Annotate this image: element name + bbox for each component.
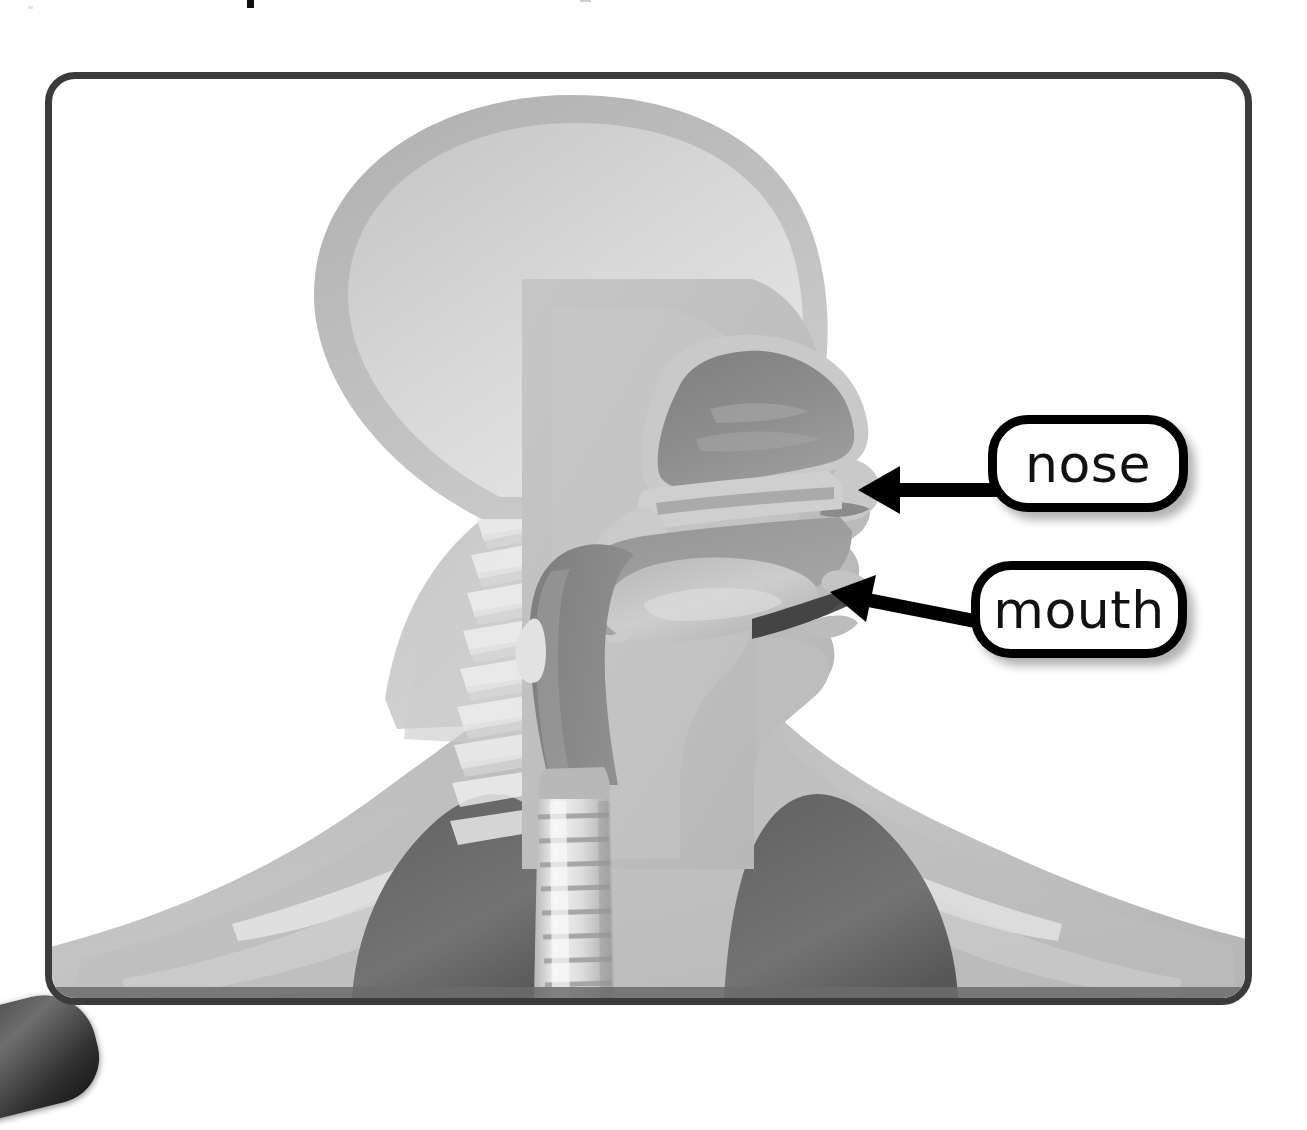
- callout-label-mouth-text: mouth: [993, 584, 1164, 636]
- callout-label-nose[interactable]: nose: [988, 415, 1188, 512]
- text-remnant-mark-3: [28, 6, 33, 9]
- cut-off-text-line-above: [0, 0, 1307, 14]
- floor-shadow: [52, 987, 1245, 998]
- text-remnant-mark-1: [247, 0, 254, 8]
- cut-off-rounded-shape-bottom-left: [0, 984, 109, 1129]
- diagram-panel-frame: [45, 72, 1252, 1005]
- text-remnant-mark-2: [580, 0, 591, 2]
- head-and-neck-cross-section-illustration: [52, 79, 1245, 998]
- callout-label-nose-text: nose: [1025, 438, 1151, 490]
- callout-label-mouth[interactable]: mouth: [971, 561, 1187, 658]
